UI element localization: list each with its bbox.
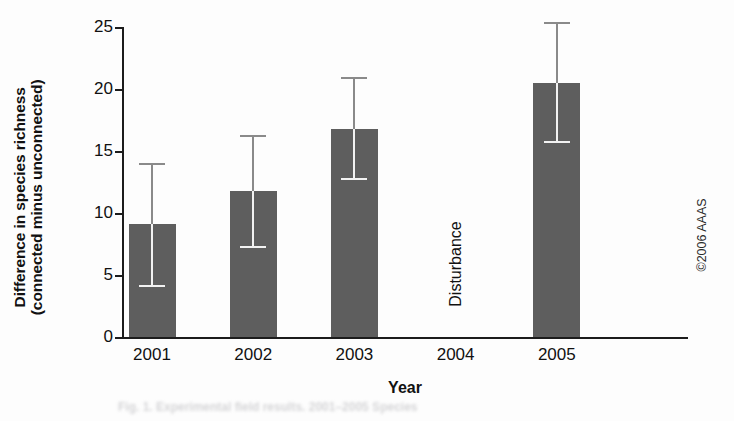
y-axis-tick-mark <box>115 89 122 91</box>
error-bar-cap-lower <box>544 141 570 143</box>
error-bar-stem-lower <box>151 224 153 285</box>
y-axis-tick-label: 10 <box>94 203 113 223</box>
y-axis-tick-mark <box>115 213 122 215</box>
annotation-disturbance: Disturbance <box>447 184 465 344</box>
y-axis-line <box>122 27 124 338</box>
x-axis-tick-label: 2004 <box>437 345 475 365</box>
y-axis-tick-label: 25 <box>94 17 113 37</box>
error-bar-stem-upper <box>151 163 153 224</box>
y-axis-tick-label: 20 <box>94 79 113 99</box>
y-axis-tick-label: 15 <box>94 141 113 161</box>
plot-area: 0510152025 20012002200320042005 Disturba… <box>122 27 688 337</box>
x-axis-line <box>122 337 688 339</box>
error-bar-stem-upper <box>252 135 254 191</box>
error-bar-cap-upper <box>139 163 165 165</box>
y-axis-tick-mark <box>115 337 122 339</box>
error-bar-cap-lower <box>341 178 367 180</box>
copyright-notice: ©2006 AAAS <box>695 175 709 295</box>
y-axis-tick-label: 0 <box>104 327 113 347</box>
x-axis-tick-label: 2003 <box>335 345 373 365</box>
x-axis-tick-label: 2001 <box>133 345 171 365</box>
error-bar-cap-upper <box>240 135 266 137</box>
error-bar-stem-upper <box>556 22 558 83</box>
x-axis-tick-label: 2002 <box>234 345 272 365</box>
y-axis-title: Difference in species richness (connecte… <box>11 32 46 362</box>
y-axis-tick-mark <box>115 275 122 277</box>
error-bar-cap-upper <box>544 22 570 24</box>
error-bar-cap-lower <box>240 246 266 248</box>
error-bar-cap-lower <box>139 285 165 287</box>
y-axis-tick-label: 5 <box>104 265 113 285</box>
y-axis-tick-mark <box>115 151 122 153</box>
chart-figure: Difference in species richness (connecte… <box>0 0 734 421</box>
y-axis-tick-mark <box>115 27 122 29</box>
x-axis-title: Year <box>122 379 688 397</box>
error-bar-cap-upper <box>341 77 367 79</box>
caption-remnant: Fig. 1. Experimental field results. 2001… <box>118 400 588 414</box>
error-bar-stem-lower <box>556 83 558 141</box>
y-axis-title-line2: (connected minus unconnected) <box>28 32 45 362</box>
x-axis-tick-label: 2005 <box>538 345 576 365</box>
error-bar-stem-lower <box>252 191 254 247</box>
error-bar-stem-upper <box>353 77 355 129</box>
error-bar-stem-lower <box>353 129 355 179</box>
y-axis-title-line1: Difference in species richness <box>11 32 28 362</box>
